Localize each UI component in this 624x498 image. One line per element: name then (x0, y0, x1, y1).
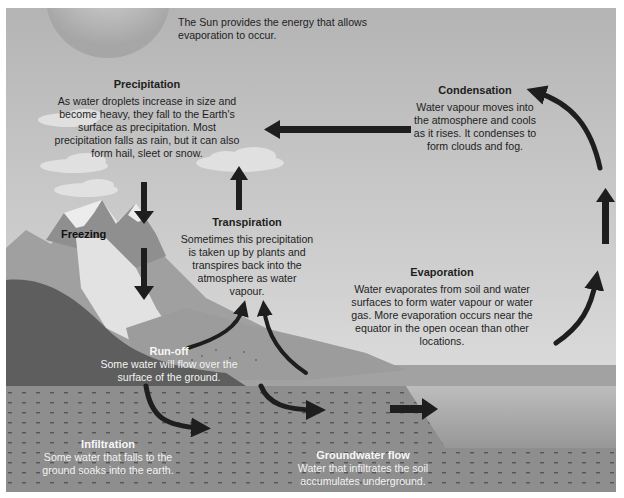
transpiration-label: Transpiration Sometimes this precipitati… (180, 216, 314, 298)
precipitation-title: Precipitation (54, 78, 240, 91)
evaporation-label: Evaporation Water evaporates from soil a… (350, 266, 534, 348)
transpiration-text: Sometimes this precipitation is taken up… (181, 233, 313, 297)
groundwater-text: Water that infiltrates the soil accumula… (298, 462, 428, 487)
infiltration-title: Infiltration (40, 438, 176, 451)
water-cycle-diagram: The Sun provides the energy that allows … (6, 8, 616, 492)
runoff-text: Some water will flow over the surface of… (100, 358, 237, 383)
condensation-text: Water vapour moves into the atmosphere a… (414, 101, 536, 152)
condensation-label: Condensation Water vapour moves into the… (412, 84, 538, 153)
groundwater-label: Groundwater flow Water that infiltrates … (296, 449, 430, 488)
evaporation-text: Water evaporates from soil and water sur… (351, 283, 532, 347)
groundwater-title: Groundwater flow (296, 449, 430, 462)
curved-arrow-evaporation-icon (556, 280, 596, 343)
evaporation-title: Evaporation (350, 266, 534, 279)
arrow-up-icon (230, 166, 248, 210)
sun-icon (46, 8, 170, 58)
transpiration-title: Transpiration (180, 216, 314, 229)
condensation-title: Condensation (412, 84, 538, 97)
infiltration-text: Some water that falls to the ground soak… (42, 451, 173, 476)
sun-caption: The Sun provides the energy that allows … (178, 16, 378, 42)
curved-arrow-condensation-icon (536, 92, 600, 168)
runoff-title: Run-off (94, 345, 244, 358)
infiltration-label: Infiltration Some water that falls to th… (40, 438, 176, 477)
precipitation-text: As water droplets increase in size and b… (55, 95, 240, 159)
runoff-label: Run-off Some water will flow over the su… (94, 345, 244, 384)
arrow-up-icon (596, 188, 615, 244)
arrow-left-icon (264, 120, 411, 139)
precipitation-label: Precipitation As water droplets increase… (54, 78, 240, 160)
freezing-label: Freezing (61, 228, 106, 240)
